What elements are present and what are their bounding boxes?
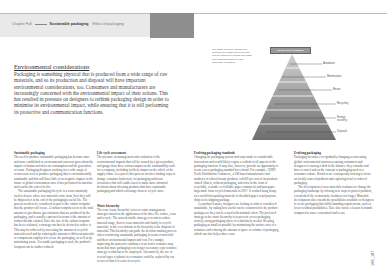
column-paragraph: The need to produce sustainable packagin… <box>14 155 94 189</box>
header-tab-block <box>150 13 194 38</box>
tier-label-energy-recovery: Energy recovery <box>337 116 347 122</box>
column-evolving-packaging: Evolving packaging Packaging becomes eve… <box>294 151 374 215</box>
column-life-cycle-assessment: Life-cycle assessment The pressure on ma… <box>97 151 177 263</box>
tier-label-recycling: Recycling <box>337 102 348 105</box>
column-paragraph: As product lessons, designers are lookin… <box>194 202 279 236</box>
spacer <box>97 194 177 204</box>
column-paragraph: The sustainable packaging lifecycle is a… <box>14 189 94 249</box>
tier-label-reuse: Reuse <box>333 88 341 91</box>
column-evolving-standards: Evolving packaging standards Changing th… <box>194 151 279 236</box>
tier-label-avoidance: Avoidance <box>323 62 335 65</box>
breadcrumb-separator <box>35 24 47 25</box>
breadcrumb-item: Ethics of packaging <box>93 22 124 26</box>
column-paragraph: Changing the packaging system and ways m… <box>194 155 279 202</box>
intro-paragraph: Packaging is something physical that is … <box>14 71 174 115</box>
section-title: Environmental considerations <box>14 63 89 70</box>
breadcrumb-current: Sustainable packaging <box>50 22 89 26</box>
page-numbers: 186_187 <box>370 250 375 266</box>
column-paragraph: Packaging becomes ever-gradually changin… <box>294 155 374 185</box>
waste-hierarchy-pyramid <box>252 54 336 140</box>
breadcrumb: Chapter Full Sustainable packaging Ethic… <box>12 22 124 26</box>
tier-label-disposal: Disposal <box>337 130 347 133</box>
column-sustainable-packaging: Sustainable packaging The need to produc… <box>14 151 94 249</box>
breadcrumb-item: Chapter Full <box>12 22 32 26</box>
column-paragraph: The pressure on management and evaluatio… <box>97 155 177 193</box>
tier-label-minimisation: Minimisation <box>327 75 341 78</box>
figure-title: WASTE MANAGEMENT HIERARCHY <box>270 47 311 54</box>
column-paragraph: The development of new materials continu… <box>294 185 374 215</box>
column-paragraph: The term 'waste hierarchy' refers to was… <box>97 208 177 263</box>
figure-caption: The waste hierarchy diagram the describe… <box>212 48 252 64</box>
